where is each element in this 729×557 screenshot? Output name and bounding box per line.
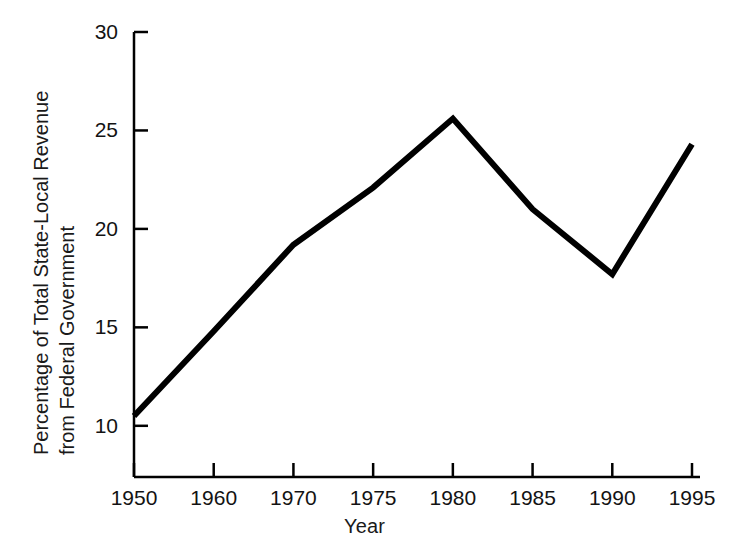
x-tick-label: 1970	[270, 486, 317, 510]
data-series-line	[134, 119, 692, 416]
x-axis-title: Year	[0, 515, 729, 538]
y-axis-title-line-2: from Federal Government	[56, 226, 79, 455]
y-axis-ticks	[134, 32, 148, 426]
y-axis-title-line-1: Percentage of Total State-Local Revenue	[30, 91, 53, 455]
x-tick-label: 1985	[509, 486, 556, 510]
x-tick-label: 1980	[429, 486, 476, 510]
x-tick-label: 1995	[669, 486, 716, 510]
y-axis-title: Percentage of Total State-Local Revenue …	[0, 0, 80, 480]
x-tick-label: 1975	[350, 486, 397, 510]
chart-figure: 1015202530 19501960197019751980198519901…	[0, 0, 729, 557]
x-tick-label: 1990	[589, 486, 636, 510]
x-tick-label: 1950	[111, 486, 158, 510]
x-tick-label: 1960	[190, 486, 237, 510]
x-axis-ticks	[134, 463, 692, 477]
line-chart-plot	[0, 0, 729, 557]
